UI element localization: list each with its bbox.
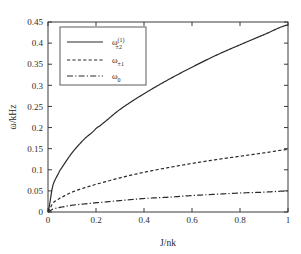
y-tick-label-9: 0.45 [27, 17, 43, 27]
chart-legend: ω(1)±2ω±1ω0 [60, 27, 146, 85]
chart-figure: 00.20.40.60.81 00.050.10.150.20.250.30.3… [0, 0, 301, 254]
x-tick-label-5: 1 [286, 215, 291, 225]
x-tick-label-4: 0.8 [234, 215, 246, 225]
x-axis-title: J/nk [160, 238, 176, 248]
y-tick-label-0: 0 [39, 207, 44, 217]
y-tick-label-6: 0.3 [32, 81, 44, 91]
y-tick-label-3: 0.15 [27, 144, 43, 154]
x-tick-label-2: 0.4 [138, 215, 150, 225]
x-tick-label-3: 0.6 [186, 215, 198, 225]
y-tick-label-2: 0.1 [32, 165, 43, 175]
y-tick-label-5: 0.25 [27, 102, 43, 112]
y-axis-title: ω/kHz [8, 105, 18, 130]
y-tick-label-7: 0.35 [27, 59, 43, 69]
y-tick-label-1: 0.05 [27, 186, 43, 196]
x-tick-label-0: 0 [46, 215, 51, 225]
x-tick-label-1: 0.2 [90, 215, 101, 225]
y-tick-label-8: 0.4 [32, 38, 44, 48]
y-tick-label-4: 0.2 [32, 123, 43, 133]
